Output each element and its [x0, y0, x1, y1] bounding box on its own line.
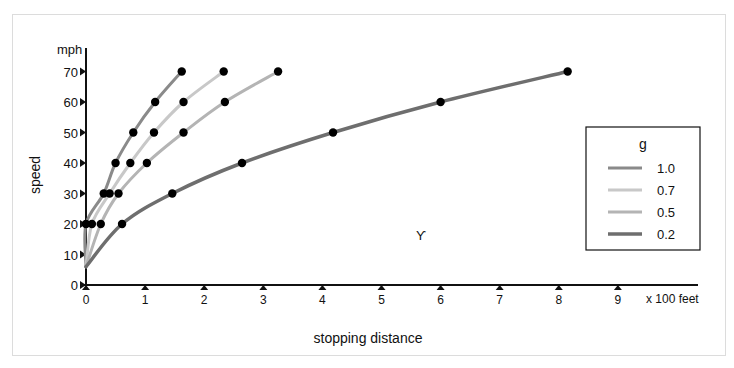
x-tick-label: 2	[201, 293, 208, 307]
legend-label: 1.0	[657, 161, 675, 176]
legend: g 1.00.70.50.2	[586, 127, 700, 250]
data-point	[274, 67, 282, 75]
x-unit-label: x 100 feet	[646, 292, 699, 306]
y-tick-label: 0	[71, 278, 78, 293]
y-tick-label: 40	[64, 156, 78, 171]
x-tick-label: 3	[260, 293, 267, 307]
data-point	[129, 128, 137, 136]
data-point	[88, 220, 96, 228]
x-tick-label: 7	[496, 293, 503, 307]
data-point	[178, 67, 186, 75]
legend-label: 0.2	[657, 227, 675, 242]
y-axis-label: speed	[27, 156, 43, 194]
stopping-distance-chart: 010203040506070 0123456789 mph speed x 1…	[0, 0, 734, 368]
data-point	[97, 220, 105, 228]
data-point	[179, 128, 187, 136]
data-point	[220, 67, 228, 75]
y-tick-label: 10	[64, 248, 78, 263]
x-axis-label: stopping distance	[314, 330, 423, 346]
x-tick-label: 0	[83, 293, 90, 307]
x-tick-label: 6	[437, 293, 444, 307]
x-tick-label: 8	[555, 293, 562, 307]
legend-title: g	[639, 136, 647, 152]
data-point	[221, 98, 229, 106]
data-point	[238, 159, 246, 167]
y-tick-label: 50	[64, 126, 78, 141]
data-point	[143, 159, 151, 167]
legend-label: 0.7	[657, 183, 675, 198]
y-unit-label: mph	[57, 42, 82, 57]
data-point	[563, 67, 571, 75]
stray-mark: ϒ	[416, 228, 426, 243]
x-tick-label: 9	[615, 293, 622, 307]
x-ticks: 0123456789	[82, 285, 622, 307]
data-point	[436, 98, 444, 106]
data-point	[105, 189, 113, 197]
legend-label: 0.5	[657, 205, 675, 220]
data-point	[150, 128, 158, 136]
data-point	[151, 98, 159, 106]
data-point	[114, 189, 122, 197]
y-tick-label: 70	[64, 65, 78, 80]
x-tick-label: 1	[142, 293, 149, 307]
series-curve-1.0	[85, 72, 182, 267]
x-tick-label: 5	[378, 293, 385, 307]
data-point	[329, 128, 337, 136]
y-tick-label: 20	[64, 217, 78, 232]
data-point	[168, 189, 176, 197]
y-tick-label: 60	[64, 95, 78, 110]
y-ticks: 010203040506070	[64, 65, 86, 294]
data-point	[118, 220, 126, 228]
data-point	[179, 98, 187, 106]
data-point	[111, 159, 119, 167]
x-tick-label: 4	[319, 293, 326, 307]
y-tick-label: 30	[64, 187, 78, 202]
data-point	[126, 159, 134, 167]
